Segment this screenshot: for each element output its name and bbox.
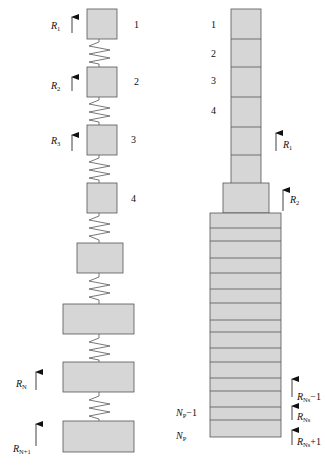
force-label-r2: R2	[51, 81, 60, 94]
layer-label-3: 3	[211, 76, 216, 86]
mass-box-3	[87, 125, 117, 155]
force-label-rns-minus-1: RNs−1	[297, 392, 321, 405]
layer-label-np-minus-1: NP−1	[176, 408, 197, 421]
force-label-rn: RN	[16, 379, 27, 392]
spring-icon	[89, 39, 110, 67]
mass-box-5	[77, 243, 123, 273]
spring-icon	[89, 392, 110, 421]
spring-icon	[89, 213, 110, 243]
column-middle	[223, 183, 269, 213]
column-narrow	[231, 9, 261, 184]
column-wide	[210, 213, 281, 437]
force-label-rns: RNs	[297, 412, 310, 425]
spring-icon	[89, 97, 110, 125]
spring-icon	[89, 155, 110, 183]
layer-label-4: 4	[211, 106, 216, 116]
force-label-rns-plus-1: RNs+1	[297, 437, 321, 450]
mass-label-2: 2	[134, 77, 139, 87]
layer-label-np: NP	[176, 431, 186, 444]
mass-label-3: 3	[131, 135, 136, 145]
right-model	[210, 9, 281, 437]
force-label-rn-plus-1: RN+1	[13, 444, 31, 457]
diagram-canvas	[0, 0, 325, 467]
mass-box-n	[63, 362, 134, 392]
mass-box-1	[87, 9, 117, 39]
mass-box-n-plus-1	[63, 421, 134, 452]
force-label-r1-right: R1	[283, 140, 292, 153]
mass-box-6	[63, 304, 134, 334]
mass-label-4: 4	[131, 194, 136, 204]
mass-box-2	[87, 67, 117, 97]
force-label-r2-right: R2	[290, 195, 299, 208]
mass-label-1: 1	[134, 20, 139, 30]
layer-label-2: 2	[211, 49, 216, 59]
force-label-r3: R3	[51, 136, 60, 149]
mass-box-4	[87, 183, 117, 213]
spring-icon	[89, 334, 110, 362]
left-model	[63, 9, 134, 452]
layer-label-1: 1	[211, 20, 216, 30]
force-label-r1: R1	[51, 21, 60, 34]
spring-icon	[89, 273, 110, 304]
